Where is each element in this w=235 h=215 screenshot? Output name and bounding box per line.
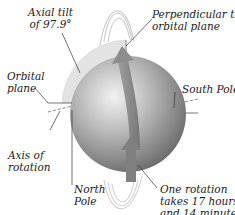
perpendicular-line2: orbital plane [152, 20, 235, 32]
orbital-plane-label: Orbital plane [7, 70, 45, 94]
axis-of-rotation-right [185, 99, 198, 102]
one-rotation-line2: takes 17 hours [160, 195, 235, 207]
one-rotation-label: One rotation takes 17 hours and 14 minut… [160, 183, 235, 215]
orbital-plane-line1: Orbital [7, 70, 45, 82]
axis-of-rotation-line1: Axis of [8, 149, 50, 161]
one-rotation-line3: and 14 minutes [160, 207, 235, 215]
ring-bottom [104, 176, 142, 209]
orbital-plane-line2: plane [7, 82, 45, 94]
axial-tilt-label: Axial tilt of 97.9° [28, 6, 73, 30]
north-pole-line1: North [74, 183, 106, 195]
perpendicular-label: Perpendicular to orbital plane [152, 8, 235, 32]
perpendicular-line1: Perpendicular to [152, 8, 235, 20]
axis-of-rotation-line2: rotation [8, 161, 50, 173]
south-pole-label: South Pole [182, 83, 235, 95]
north-pole-label: North Pole [74, 183, 106, 207]
axis-of-rotation-label: Axis of rotation [8, 149, 50, 173]
one-rotation-line1: One rotation [160, 183, 235, 195]
south-pole-line1: South Pole [182, 83, 235, 95]
axial-tilt-line1: Axial tilt [28, 6, 73, 18]
axial-tilt-line2: of 97.9° [28, 18, 73, 30]
north-pole-line2: Pole [74, 195, 106, 207]
